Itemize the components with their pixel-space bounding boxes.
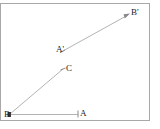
- tick-at-c: [61, 68, 66, 70]
- point-label-a-prime: A': [56, 45, 64, 54]
- point-label-a: A: [80, 109, 87, 118]
- segment-aprime-to-bprime: [62, 15, 128, 52]
- diagram-stage: B A C A' B': [0, 0, 160, 129]
- point-label-b: B: [4, 110, 10, 119]
- point-label-c: C: [66, 64, 72, 73]
- point-label-b-prime: B': [131, 8, 139, 17]
- ray-b-to-c: [10, 69, 63, 114]
- arrowhead-bprime-icon: [124, 14, 131, 19]
